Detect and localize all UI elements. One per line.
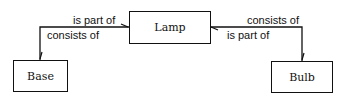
diagram-canvas: Lamp Base Bulb is part of consists of co… [0,0,339,97]
edge-label-right-top: consists of [247,15,299,26]
node-bulb-label: Bulb [289,71,315,84]
node-bulb: Bulb [271,61,333,93]
node-base-label: Base [27,70,54,83]
node-base: Base [13,60,68,92]
edge-label-right-bottom: is part of [227,30,269,41]
edge-label-left-bottom: consists of [47,30,99,41]
node-lamp: Lamp [129,11,211,44]
node-lamp-label: Lamp [154,21,185,34]
edge-label-left-top: is part of [73,15,115,26]
